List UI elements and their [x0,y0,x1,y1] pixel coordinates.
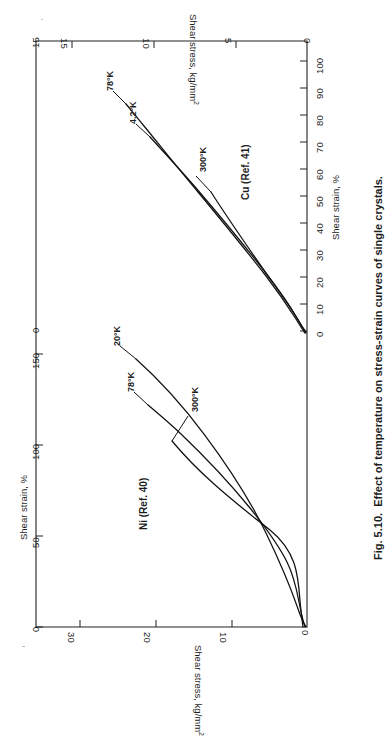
cu-strain-axis-ticks [300,61,307,331]
cu-stress-axis-title-text: Shear stress, kg/mm [188,14,199,101]
cu-stress-axis-exponent: 2 [193,101,200,105]
cu-stress-axis-ticks [72,41,236,48]
scan-speck [22,646,25,647]
cu-curve-4p2K [150,137,306,332]
ni-stress-axis-exponent: 2 [198,732,205,736]
ni-curve-300K [172,441,303,627]
ni-curve-78K [148,405,305,627]
ni-stress-axis-ticks [80,620,232,627]
plot-frame [36,41,307,627]
scan-speck [41,19,43,20]
ni-strain-axis-ticks [36,354,43,627]
ni-stress-axis-title-text: Shear stress, kg/mm [193,645,204,732]
cu-curve-78K [126,104,305,333]
figure-caption-number: Fig. 5.10. [372,513,384,560]
ni-curve-20K [136,359,306,627]
figure-caption-text: Effect of temperature on stress-strain c… [372,176,384,507]
